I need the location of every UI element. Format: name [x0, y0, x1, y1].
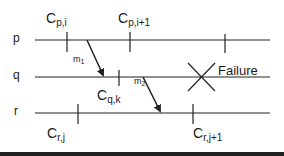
checkpoint-letter: C: [97, 87, 107, 103]
checkpoint-letter: C: [46, 10, 56, 26]
checkpoint-subscript: r,j: [57, 132, 65, 143]
checkpoint-letter: C: [193, 125, 203, 141]
process-label-r: r: [14, 105, 18, 117]
checkpoint-subscript: r,j+1: [203, 132, 222, 143]
message-letter: m: [134, 76, 142, 86]
process-label-p: p: [13, 32, 20, 44]
message-letter: m: [73, 54, 81, 64]
checkpoint-label-r-j: Cr,j: [47, 126, 65, 143]
message-label-m2: m2: [134, 77, 145, 87]
message-subscript: 2: [142, 80, 146, 87]
checkpoint-subscript: p,i: [56, 17, 67, 28]
checkpoint-label-q-k: Cq,k: [97, 88, 120, 105]
message-m2-arrow: [143, 77, 160, 111]
failure-label: Failure: [218, 64, 258, 77]
bottom-border: [0, 152, 284, 156]
message-m1-arrow: [87, 40, 103, 75]
checkpoint-diagram: p q r Cp,i Cp,i+1 Cq,k Cr,j Cr,j+1 m1 m2…: [0, 0, 284, 156]
checkpoint-letter: C: [47, 125, 57, 141]
checkpoint-label-p-i: Cp,i: [46, 11, 67, 28]
message-subscript: 1: [81, 58, 85, 65]
message-label-m1: m1: [73, 55, 84, 65]
checkpoint-label-r-j1: Cr,j+1: [193, 126, 222, 143]
checkpoint-label-p-i1: Cp,i+1: [118, 11, 150, 28]
checkpoint-subscript: q,k: [107, 94, 120, 105]
checkpoint-letter: C: [118, 10, 128, 26]
checkpoint-subscript: p,i+1: [128, 17, 150, 28]
process-label-q: q: [13, 69, 20, 81]
